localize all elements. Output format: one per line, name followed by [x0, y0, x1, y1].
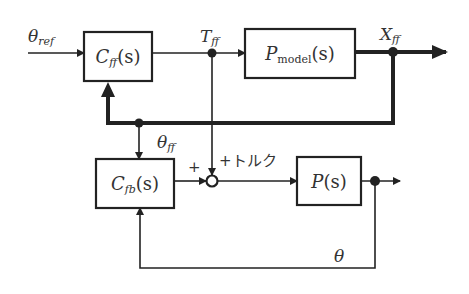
svg-text:θref: θref [28, 26, 56, 48]
svg-text:θff: θff [157, 132, 177, 154]
svg-text:Xff: Xff [378, 24, 402, 46]
svg-text:Cfb(s): Cfb(s) [111, 173, 159, 196]
block-p: P(s) [297, 157, 361, 205]
signal-theta-ref: θref [28, 26, 84, 53]
svg-text:P(s): P(s) [310, 171, 346, 192]
block-pmodel: Pmodel(s) [245, 29, 355, 78]
block-cff: Cff(s) [84, 32, 152, 81]
plus-sign-left: + [188, 158, 201, 176]
svg-text:θ: θ [334, 246, 344, 266]
summing-junction [207, 176, 218, 187]
svg-text:Cff(s): Cff(s) [96, 46, 141, 69]
svg-text:Tff: Tff [200, 26, 221, 48]
block-diagram: θref Cff(s) Tff Pmodel(s) Xff θff Cfb(s) [0, 0, 469, 294]
arrowhead-thick-up [101, 82, 115, 97]
block-cfb: Cfb(s) [96, 159, 174, 208]
torque-label: +トルク [219, 152, 277, 170]
